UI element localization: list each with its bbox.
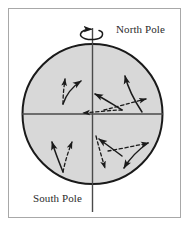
north-pole-label: North Pole [116,23,165,35]
south-pole-label: South Pole [33,192,82,204]
rotation-direction-arrow [80,29,102,39]
coriolis-diagram: North Pole South Pole [0,0,191,228]
rotation-arc-path [80,29,102,39]
